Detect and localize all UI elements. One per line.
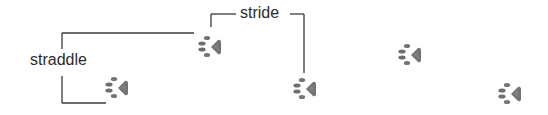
- paw-print-icon: [105, 77, 128, 98]
- paw-print-icon: [398, 44, 421, 65]
- track-pattern-diagram: straddle stride: [0, 0, 548, 115]
- paw-print-icon: [293, 78, 316, 99]
- stride-label: stride: [238, 5, 281, 21]
- paw-print-icon: [198, 36, 221, 57]
- stride-bracket: [211, 14, 304, 73]
- paw-print-icon: [498, 83, 521, 104]
- straddle-label: straddle: [30, 52, 87, 68]
